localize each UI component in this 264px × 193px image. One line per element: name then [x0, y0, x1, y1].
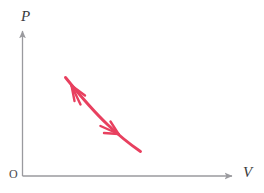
origin-label: O — [9, 168, 18, 180]
v-axis-label: V — [243, 165, 252, 180]
pv-diagram-figure: P V O — [0, 0, 264, 193]
plot-canvas — [0, 0, 264, 193]
p-axis-label: P — [21, 9, 30, 24]
